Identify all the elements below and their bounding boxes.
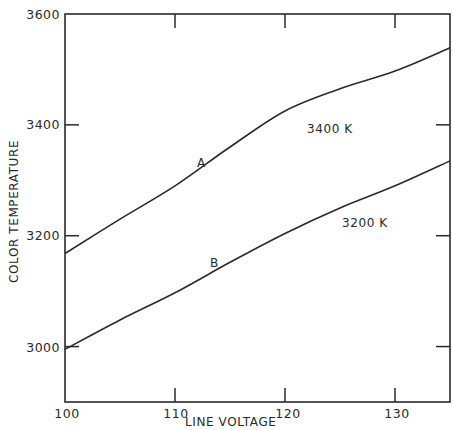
y-tick-label: 3400: [26, 117, 60, 132]
x-tick-label: 100: [54, 406, 79, 421]
chart: 3600 3400 3200 3000 100 110 120 130 LINE…: [0, 0, 453, 430]
x-tick-label: 120: [275, 406, 300, 421]
curves: [65, 48, 450, 350]
curve-a-annotation: 3400 K: [307, 122, 353, 136]
y-axis-title: COLOR TEMPERATURE: [7, 140, 21, 283]
y-tick-label: 3600: [26, 7, 60, 22]
curve-b-label: B: [210, 256, 219, 270]
x-tick-label: 130: [384, 406, 409, 421]
curve-a: [65, 48, 450, 254]
y-tick-label: 3000: [26, 340, 60, 355]
y-tick-label: 3200: [26, 228, 60, 243]
x-axis-title: LINE VOLTAGE: [185, 415, 277, 429]
curve-b: [65, 161, 450, 349]
curve-b-annotation: 3200 K: [342, 216, 388, 230]
curve-a-label: A: [197, 156, 206, 170]
